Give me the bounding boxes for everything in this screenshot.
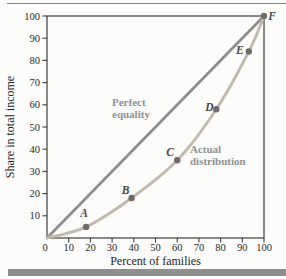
point-label-B: B bbox=[121, 184, 130, 196]
y-tick-label: 70 bbox=[30, 77, 41, 88]
y-tick-label: 100 bbox=[24, 11, 40, 22]
x-tick-label: 0 bbox=[42, 242, 47, 253]
x-tick-label: 90 bbox=[237, 242, 248, 253]
x-tick-label: 10 bbox=[63, 242, 74, 253]
x-axis-title: Percent of families bbox=[110, 254, 201, 268]
data-point-F bbox=[261, 13, 267, 19]
y-tick-label: 20 bbox=[30, 188, 41, 199]
y-tick-label: 10 bbox=[30, 210, 41, 221]
data-point-E bbox=[246, 48, 252, 54]
point-label-D: D bbox=[204, 101, 214, 113]
chart-svg: 0102030405060708090100102030405060708090… bbox=[0, 0, 286, 279]
x-tick-label: 60 bbox=[172, 242, 183, 253]
x-tick-label: 20 bbox=[85, 242, 96, 253]
point-label-C: C bbox=[166, 146, 174, 158]
x-tick-label: 40 bbox=[129, 242, 140, 253]
annotation-line-0-1: equality bbox=[112, 108, 150, 120]
point-label-E: E bbox=[235, 44, 244, 56]
y-tick-label: 30 bbox=[30, 166, 41, 177]
x-tick-label: 30 bbox=[107, 242, 118, 253]
bottom-bar-divider bbox=[8, 269, 286, 276]
perfect-equality-line bbox=[47, 16, 264, 238]
lorenz-curve-chart: 0102030405060708090100102030405060708090… bbox=[0, 0, 286, 279]
y-tick-label: 80 bbox=[30, 55, 41, 66]
data-point-C bbox=[174, 157, 180, 163]
figure-panel: 0102030405060708090100102030405060708090… bbox=[0, 0, 286, 279]
annotation-line-0-0: Perfect bbox=[112, 96, 146, 108]
data-point-A bbox=[83, 224, 89, 230]
x-tick-label: 70 bbox=[194, 242, 205, 253]
annotation-line-1-0: Actual bbox=[190, 143, 221, 155]
point-label-F: F bbox=[267, 10, 276, 22]
point-label-A: A bbox=[79, 207, 88, 219]
data-point-D bbox=[213, 106, 219, 112]
x-tick-label: 80 bbox=[215, 242, 226, 253]
y-tick-label: 90 bbox=[30, 33, 41, 44]
y-axis-title: Share in total income bbox=[3, 76, 17, 178]
x-tick-label: 50 bbox=[150, 242, 161, 253]
annotation-line-1-1: distribution bbox=[190, 155, 246, 167]
x-tick-label: 100 bbox=[256, 242, 272, 253]
y-tick-label: 50 bbox=[30, 122, 41, 133]
y-tick-label: 40 bbox=[30, 144, 41, 155]
y-tick-label: 60 bbox=[30, 99, 41, 110]
